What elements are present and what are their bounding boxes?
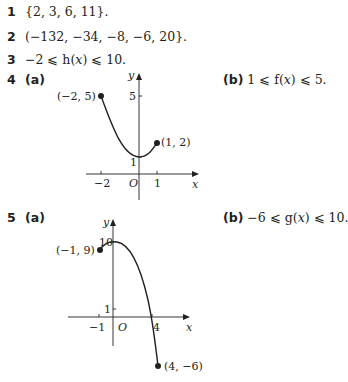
y-tick-10: 10 bbox=[99, 236, 113, 249]
origin-label: O bbox=[118, 321, 127, 334]
x-tick-neg1: −1 bbox=[89, 321, 105, 334]
x-tick-4: 4 bbox=[153, 321, 160, 334]
y-label: y bbox=[102, 216, 110, 229]
x-axis-arrow-icon bbox=[183, 314, 190, 320]
y-axis-arrow-icon bbox=[110, 219, 116, 226]
y-tick-1: 1 bbox=[104, 303, 111, 316]
x-label: x bbox=[186, 321, 193, 334]
point-label: (4, −6) bbox=[164, 360, 203, 373]
point-label: (−1, 9) bbox=[56, 244, 95, 257]
endpoint-dot bbox=[155, 363, 161, 369]
